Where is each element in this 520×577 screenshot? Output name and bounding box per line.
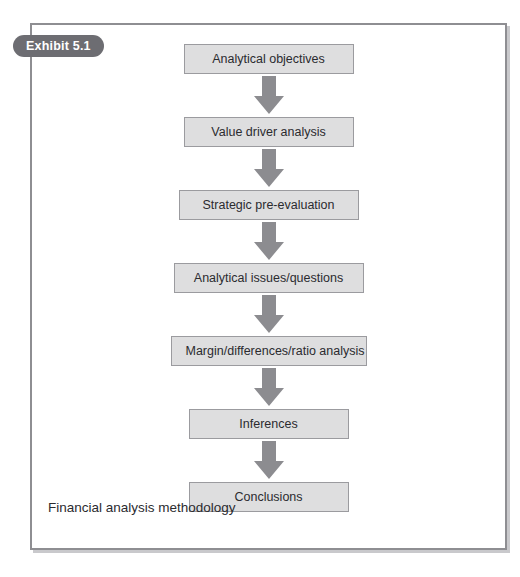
exhibit-badge: Exhibit 5.1 [13, 35, 104, 57]
arrow-down-icon [254, 222, 284, 260]
flow-step-box: Margin/differences/ratio analysis [171, 336, 367, 366]
arrow-down-icon [254, 368, 284, 406]
arrow-down-icon [254, 76, 284, 114]
arrow-down-icon [254, 149, 284, 187]
arrow-down-icon [254, 441, 284, 479]
flowchart: Analytical objectivesValue driver analys… [30, 23, 507, 550]
flow-step-box: Value driver analysis [184, 117, 354, 147]
flow-step-box: Analytical objectives [184, 44, 354, 74]
flow-step-box: Inferences [189, 409, 349, 439]
exhibit-caption: Financial analysis methodology [48, 500, 236, 515]
flow-step-box: Strategic pre-evaluation [179, 190, 359, 220]
arrow-down-icon [254, 295, 284, 333]
flow-step-box: Analytical issues/questions [174, 263, 364, 293]
